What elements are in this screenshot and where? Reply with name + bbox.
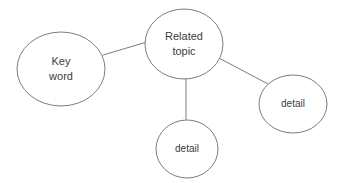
node-key-word-label-line2: word (48, 70, 73, 82)
connector-related-topic-detail-right (217, 57, 268, 84)
node-key-word-label: Key (52, 55, 71, 67)
connector-key-word-related-topic (103, 42, 147, 55)
diagram-canvas: Key word Related topic detail detail (0, 0, 339, 183)
node-detail-bottom[interactable]: detail (156, 120, 218, 178)
node-related-topic-label-line2: topic (172, 45, 196, 57)
node-detail-right-label: detail (281, 98, 305, 109)
node-key-word[interactable]: Key word (17, 32, 105, 106)
node-detail-bottom-label: detail (175, 143, 199, 154)
node-detail-right[interactable]: detail (259, 75, 327, 133)
node-related-topic-label: Related (165, 30, 203, 42)
concept-map-diagram: Key word Related topic detail detail (0, 0, 339, 183)
node-related-topic[interactable]: Related topic (145, 9, 223, 79)
